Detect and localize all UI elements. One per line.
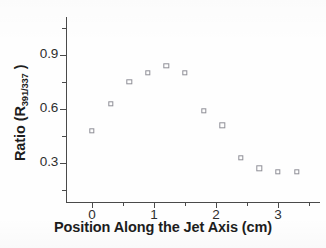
y-axis-line: [66, 17, 67, 203]
y-tick-label-0.3: 0.3: [40, 154, 58, 169]
x-tick-minor: [185, 202, 186, 206]
y-tick-label-0.9: 0.9: [40, 46, 58, 61]
y-axis-title: Ratio (R391/337 ): [12, 28, 30, 198]
data-point: [201, 108, 206, 113]
x-tick-minor: [123, 202, 124, 206]
data-point: [108, 101, 113, 106]
y-tick-minor: [62, 190, 66, 191]
data-point: [182, 70, 187, 75]
data-point: [238, 155, 243, 160]
y-tick-label-0.6: 0.6: [40, 100, 58, 115]
y-tick-minor: [62, 136, 66, 137]
data-point: [219, 122, 224, 127]
x-axis-title: Position Along the Jet Axis (cm): [0, 219, 326, 235]
data-point: [164, 63, 169, 68]
data-point: [257, 166, 262, 171]
x-tick-minor: [309, 202, 310, 206]
x-tick-minor: [247, 202, 248, 206]
y-tick-0.3: [60, 163, 66, 164]
y-tick-minor: [62, 28, 66, 29]
data-point: [145, 70, 150, 75]
data-point: [275, 169, 280, 174]
figure-canvas: 0.30.60.90123 Position Along the Jet Axi…: [0, 0, 326, 248]
y-axis-title-subscript: 391/337: [19, 73, 30, 106]
y-tick-0.6: [60, 109, 66, 110]
y-axis-title-tail: ): [12, 65, 28, 74]
x-axis-line: [66, 202, 320, 203]
data-point: [89, 128, 94, 133]
y-tick-0.9: [60, 55, 66, 56]
y-axis-title-main: Ratio (R: [12, 106, 28, 161]
data-point: [294, 169, 299, 174]
data-point: [126, 79, 131, 84]
y-tick-minor: [62, 82, 66, 83]
